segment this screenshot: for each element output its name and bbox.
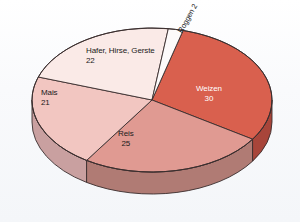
pie-label-reis: Reis 25: [118, 129, 134, 148]
pie-label-weizen-value: 30: [196, 94, 222, 104]
pie-label-hafer-hirse-gerste: Hafer, Hirse, Gerste 22: [86, 46, 155, 65]
pie-label-weizen-name: Weizen: [196, 84, 222, 94]
pie-label-hafer-hirse-gerste-name: Hafer, Hirse, Gerste: [86, 46, 155, 56]
pie-label-reis-value: 25: [118, 139, 134, 149]
pie-chart-figure: Weizen 30 Reis 25 Mais 21 Hafer, Hirse, …: [0, 0, 300, 222]
pie-label-mais-name: Mais: [41, 88, 58, 98]
pie-label-reis-name: Reis: [118, 129, 134, 139]
pie-label-mais: Mais 21: [41, 88, 58, 107]
pie-label-mais-value: 21: [41, 98, 58, 108]
pie-label-weizen: Weizen 30: [196, 84, 222, 103]
pie-label-hafer-hirse-gerste-value: 22: [86, 56, 155, 66]
pie-chart-graphic: [0, 0, 300, 222]
